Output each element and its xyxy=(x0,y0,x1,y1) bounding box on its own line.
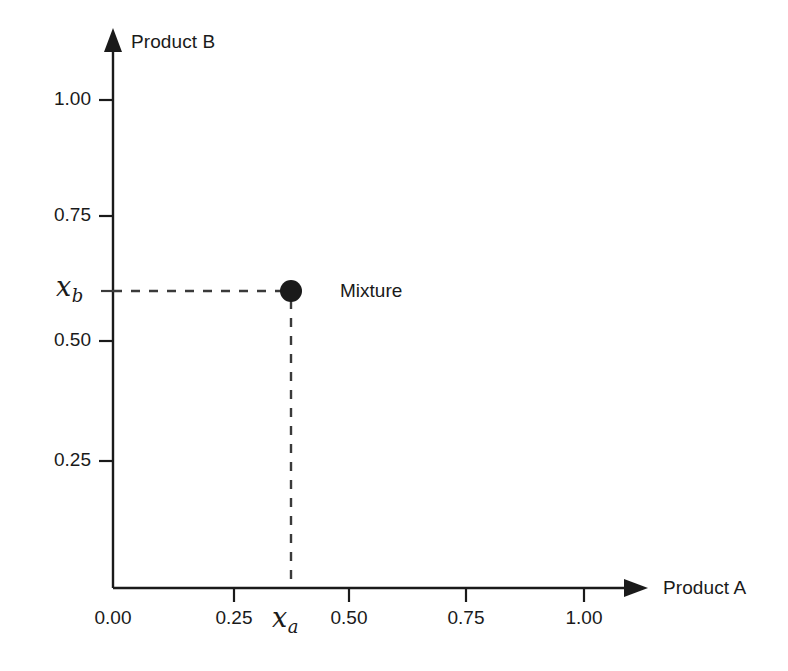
y-tick-label-1.00: 1.00 xyxy=(8,88,91,110)
plot-canvas xyxy=(0,0,788,671)
xb-base: x xyxy=(56,271,71,302)
y-axis-ticks xyxy=(99,100,113,461)
y-tick-label-0.50: 0.50 xyxy=(8,329,91,351)
x-axis xyxy=(113,579,648,597)
x-axis-arrowhead xyxy=(624,579,648,597)
x-axis-ticks xyxy=(234,588,584,602)
x-tick-label-4: 1.00 xyxy=(544,607,624,629)
xa-subscript: a xyxy=(287,616,298,637)
y-tick-label-0.25: 0.25 xyxy=(8,449,91,471)
x-tick-label-0: 0.00 xyxy=(73,607,153,629)
x-axis-value-label-xa: xa xyxy=(272,602,298,637)
data-point-label-mixture: Mixture xyxy=(340,280,402,302)
y-axis xyxy=(104,28,122,588)
data-point-mixture[interactable] xyxy=(280,280,302,302)
y-axis-value-label-xb: xb xyxy=(56,271,83,306)
y-axis-arrowhead xyxy=(104,28,122,52)
x-tick-label-3: 0.75 xyxy=(426,607,506,629)
mixture-scatter-figure: Product B Product A 0.00 0.25 0.50 0.75 … xyxy=(0,0,788,671)
x-tick-label-1: 0.25 xyxy=(194,607,274,629)
y-axis-title: Product B xyxy=(131,31,215,53)
x-tick-label-2: 0.50 xyxy=(309,607,389,629)
x-axis-title: Product A xyxy=(663,577,746,599)
xb-subscript: b xyxy=(71,285,83,306)
xa-base: x xyxy=(272,602,287,633)
y-tick-label-0.75: 0.75 xyxy=(8,204,91,226)
